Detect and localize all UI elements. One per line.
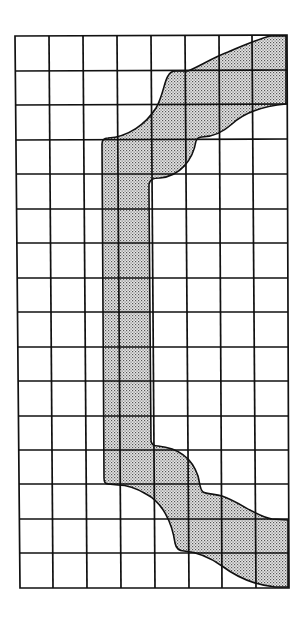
grid-diagram: [0, 0, 308, 619]
grid-hline-2: [15, 104, 287, 105]
grid-lines: [15, 35, 289, 588]
grid-hline-1: [15, 70, 287, 71]
grid-hline-3: [16, 139, 287, 140]
